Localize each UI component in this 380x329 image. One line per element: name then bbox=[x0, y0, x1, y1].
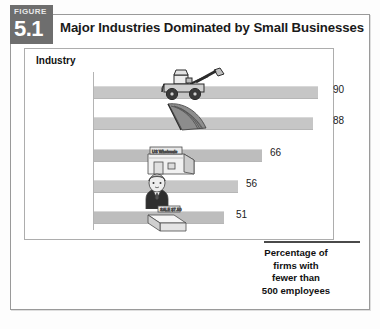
x-axis-caption: Percentage of firms with fewer than 500 … bbox=[232, 247, 360, 297]
bar-value-agricultural-services: 88 bbox=[333, 115, 344, 126]
caption-line-2: firms with bbox=[232, 260, 360, 273]
caption-line-1: Percentage of bbox=[232, 247, 360, 260]
bar-value-construction: 90 bbox=[333, 84, 344, 95]
bar-value-services: 56 bbox=[246, 178, 257, 189]
figure-page: FIGURE 5.1 Major Industries Dominated by… bbox=[0, 0, 380, 329]
bar-agricultural-services bbox=[94, 117, 313, 130]
caption-line-4: 500 employees bbox=[232, 285, 360, 298]
bar-construction bbox=[94, 86, 318, 99]
figure-number-badge: FIGURE 5.1 bbox=[10, 5, 53, 44]
caption-rule bbox=[264, 241, 360, 243]
figure-number-label: 5.1 bbox=[14, 17, 53, 41]
bar-value-wholesale-trade: 66 bbox=[270, 147, 281, 158]
bar-value-retail-trade: 51 bbox=[236, 209, 247, 220]
bar-services bbox=[94, 180, 238, 193]
bar-wholesale-trade bbox=[94, 149, 262, 162]
caption-line-3: fewer than bbox=[232, 272, 360, 285]
bar-retail-trade bbox=[94, 211, 224, 224]
